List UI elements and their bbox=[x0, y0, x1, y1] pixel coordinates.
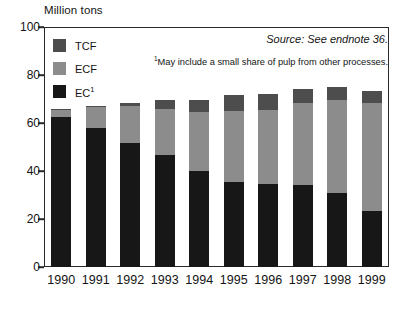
bar-segment-ecf bbox=[155, 109, 175, 156]
bar-segment-tcf bbox=[120, 103, 140, 107]
bar-segment-ec bbox=[120, 143, 140, 267]
x-axis-tick-label: 1991 bbox=[79, 273, 114, 287]
y-axis-tick-label: 40 bbox=[6, 164, 40, 178]
bar-segment-tcf bbox=[189, 100, 209, 112]
x-axis-tick-label: 1995 bbox=[217, 273, 252, 287]
bar-segment-ec bbox=[86, 128, 106, 267]
legend-swatch-ecf bbox=[53, 62, 66, 75]
bar-segment-ec bbox=[155, 155, 175, 267]
legend-item-ecf: ECF bbox=[53, 59, 97, 78]
bar-segment-ecf bbox=[51, 110, 71, 117]
bar-segment-tcf bbox=[293, 89, 313, 102]
bar-segment-ecf bbox=[362, 103, 382, 211]
legend-label-ecf: ECF bbox=[75, 63, 97, 75]
bar-group bbox=[120, 27, 140, 267]
x-axis-tick-label: 1993 bbox=[148, 273, 183, 287]
x-axis-tick-label: 1990 bbox=[44, 273, 79, 287]
y-axis-title: Million tons bbox=[44, 4, 103, 16]
x-axis-tick-label: 1992 bbox=[113, 273, 148, 287]
chart-legend: TCFECFEC1 bbox=[53, 36, 97, 105]
bar-segment-tcf bbox=[327, 87, 347, 100]
bar-segment-tcf bbox=[362, 91, 382, 103]
y-axis-tick-label: 20 bbox=[6, 212, 40, 226]
bar-segment-ec bbox=[327, 193, 347, 267]
bar-segment-ecf bbox=[86, 107, 106, 127]
bar-segment-ec bbox=[224, 182, 244, 267]
x-axis-tick-label: 1998 bbox=[320, 273, 355, 287]
bar-segment-ecf bbox=[327, 100, 347, 192]
footnote-body: May include a small share of pulp from o… bbox=[158, 57, 388, 67]
legend-swatch-ec bbox=[53, 85, 66, 98]
source-note: Source: See endnote 36. bbox=[266, 33, 388, 45]
bar-segment-ecf bbox=[293, 103, 313, 186]
bar-segment-ecf bbox=[189, 112, 209, 171]
footnote-text: 1May include a small share of pulp from … bbox=[154, 55, 388, 67]
legend-swatch-tcf bbox=[53, 39, 66, 52]
bar-segment-tcf bbox=[155, 100, 175, 108]
bar-segment-ecf bbox=[120, 106, 140, 143]
bar-segment-ec bbox=[362, 211, 382, 267]
bar-segment-tcf bbox=[258, 94, 278, 110]
legend-superscript: 1 bbox=[90, 85, 94, 94]
bar-segment-ec bbox=[258, 184, 278, 267]
bar-segment-ecf bbox=[258, 110, 278, 184]
legend-label-ec: EC1 bbox=[75, 85, 94, 99]
bar-segment-tcf bbox=[51, 109, 71, 110]
x-axis-tick-label: 1999 bbox=[355, 273, 390, 287]
stacked-bar-chart: Million tons 020406080100 19901991199219… bbox=[0, 0, 402, 320]
bar-segment-ec bbox=[293, 185, 313, 267]
y-axis-tick-label: 80 bbox=[6, 68, 40, 82]
x-axis-tick-label: 1996 bbox=[251, 273, 286, 287]
legend-item-tcf: TCF bbox=[53, 36, 97, 55]
bar-segment-ecf bbox=[224, 111, 244, 182]
bar-segment-tcf bbox=[224, 95, 244, 111]
y-axis-tick-label: 100 bbox=[6, 20, 40, 34]
bar-segment-ec bbox=[189, 171, 209, 267]
legend-item-ec: EC1 bbox=[53, 82, 97, 101]
y-axis-tick-label: 60 bbox=[6, 116, 40, 130]
x-axis-tick-label: 1994 bbox=[182, 273, 217, 287]
bar-segment-tcf bbox=[86, 106, 106, 107]
legend-label-tcf: TCF bbox=[75, 40, 96, 52]
x-axis-tick-label: 1997 bbox=[286, 273, 321, 287]
y-axis-tick-label: 0 bbox=[6, 260, 40, 274]
bar-segment-ec bbox=[51, 117, 71, 267]
